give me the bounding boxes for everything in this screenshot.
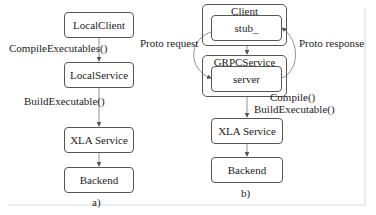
localservice-node: LocalService: [64, 62, 134, 88]
node-label: XLA Service: [218, 125, 276, 137]
edge-label-build-executable: BuildExecutable(): [24, 95, 105, 107]
stub-node: stub_: [211, 15, 282, 41]
node-label: Backend: [80, 174, 118, 186]
edge-label-build-executable-b: BuildExecutable(): [254, 103, 335, 115]
edge-label-proto-response: Proto response: [299, 37, 364, 49]
caption-a: a): [92, 196, 101, 208]
caption-b: b): [241, 187, 250, 199]
server-node: server: [211, 66, 282, 92]
xla-service-node-a: XLA Service: [64, 127, 134, 153]
node-label: XLA Service: [70, 134, 128, 146]
node-label: Backend: [228, 164, 266, 176]
localclient-node: LocalClient: [64, 12, 134, 38]
edge-label-proto-request: Proto request: [140, 37, 198, 49]
node-label: stub_: [235, 22, 259, 34]
backend-node-a: Backend: [64, 167, 134, 193]
node-label: server: [233, 73, 260, 85]
xla-service-node-b: XLA Service: [211, 118, 283, 144]
edge-label-compile-executables: CompileExecutables(): [9, 42, 107, 54]
backend-node-b: Backend: [211, 157, 283, 183]
edge-label-compile: Compile(): [270, 91, 315, 103]
node-label: LocalClient: [73, 19, 125, 31]
node-label: LocalService: [70, 69, 128, 81]
